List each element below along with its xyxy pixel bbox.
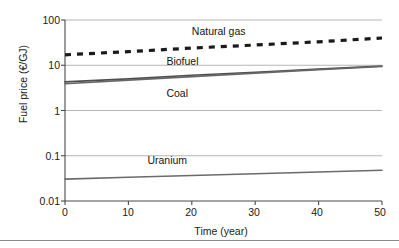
y-axis-title: Fuel price (€/GJ)	[17, 14, 29, 154]
series-label-coal: Coal	[166, 87, 188, 99]
figure-container: 100 10 1 0.1 0.01 0 10 20 30 40 50 Fuel …	[0, 0, 399, 248]
x-axis-tick-label-20: 20	[171, 206, 211, 218]
data-series-paths	[65, 38, 382, 179]
x-axis-tick-marks	[65, 201, 382, 205]
x-axis-tick-label-10: 10	[108, 206, 148, 218]
x-axis-tick-label-0: 0	[45, 206, 85, 218]
series-line-coal	[65, 66, 382, 83]
y-axis-tick-label-100: 100	[26, 14, 60, 26]
y-axis-tick-label-0.1: 0.1	[26, 150, 60, 162]
series-label-biofuel: Biofuel	[166, 55, 198, 67]
series-label-natural-gas: Natural gas	[192, 25, 246, 37]
x-axis-tick-label-50: 50	[360, 206, 399, 218]
x-axis-tick-label-40: 40	[297, 206, 337, 218]
y-axis-tick-marks	[61, 20, 65, 201]
y-axis-tick-label-1: 1	[26, 105, 60, 117]
x-axis-title: Time (year)	[126, 225, 316, 237]
figure-bottom-rule	[0, 240, 399, 241]
y-axis-tick-label-10: 10	[26, 59, 60, 71]
series-label-uranium: Uranium	[147, 154, 187, 166]
x-axis-tick-label-30: 30	[234, 206, 274, 218]
series-line-natural-gas	[65, 38, 382, 55]
series-line-uranium	[65, 170, 382, 179]
